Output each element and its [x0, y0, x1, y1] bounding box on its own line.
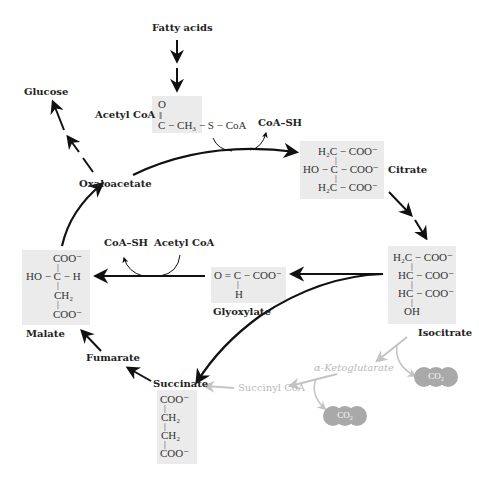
isocitrate-to-ketoglutarate-arrow	[377, 337, 407, 361]
coa-sh-output-curve	[250, 133, 266, 150]
isocitrate-line-2: HC − COO⁻	[398, 270, 454, 281]
glucose-arrow-3	[53, 102, 64, 130]
isocitrate-line-3: HC − COO⁻	[398, 288, 454, 299]
glyoxylate-cycle-diagram: CO₂ CO₂ Fatty acids Glucose Acetyl CoA C…	[0, 0, 479, 480]
malate-label: Malate	[26, 328, 65, 339]
isocitrate-label: Isocitrate	[418, 327, 472, 338]
co2-release-curve-2	[314, 379, 325, 409]
malate-to-oxaloacetate-arrow	[62, 184, 102, 246]
fumarate-label: Fumarate	[86, 352, 140, 363]
acetyl-coa-mid-input-curve	[160, 255, 180, 276]
citrate-label: Citrate	[388, 164, 427, 175]
malate-line-4: COO⁻	[53, 309, 82, 320]
co2-text-1: CO₂	[414, 371, 458, 381]
glyoxylate-line-1: O = C − COO⁻	[214, 270, 282, 281]
acetyl-coa-mid-label: Acetyl CoA	[154, 237, 214, 248]
alpha-ketoglutarate-label: α-Ketoglutarate	[314, 362, 394, 373]
co2-text-2: CO₂	[323, 410, 367, 420]
glucose-dash-1	[83, 158, 93, 172]
glyoxylate-line-2: H	[235, 289, 243, 300]
succinate-to-fumarate-arrow	[128, 368, 151, 381]
co2-label-1: CO₂	[414, 367, 458, 387]
glyoxylate-label: Glyoxylate	[213, 306, 271, 317]
isocitrate-line-1: H₂C − COO⁻	[393, 252, 453, 263]
fatty-acids-label: Fatty acids	[152, 22, 213, 33]
acetyl-coa-chain: C − CH₃ − S − CoA	[158, 120, 246, 131]
succinate-label: Succinate	[153, 378, 208, 389]
citrate-line-1: H₂C − COO⁻	[318, 146, 378, 157]
citrate-to-isocitrate-arrow-2	[415, 220, 426, 238]
malate-line-2: HO − C − H	[26, 271, 81, 282]
citrate-line-3: H₂C − COO⁻	[318, 182, 378, 193]
acetyl-coa-top-label: Acetyl CoA	[95, 109, 155, 120]
glucose-label: Glucose	[24, 86, 68, 97]
succinate-line-4: COO⁻	[160, 448, 189, 459]
succinyl-coa-label: Succinyl CoA	[238, 382, 305, 393]
arrows-layer	[0, 0, 479, 480]
glucose-arrow-2	[68, 137, 79, 152]
citrate-to-isocitrate-arrow-1	[389, 192, 411, 215]
oxaloacetate-to-citrate-arrow	[133, 149, 296, 175]
co2-release-curve-1	[397, 345, 415, 376]
coa-sh-top-label: CoA–SH	[258, 117, 302, 128]
citrate-line-2: HO − C − COO⁻	[303, 164, 379, 175]
coa-sh-mid-label: CoA–SH	[104, 237, 148, 248]
coa-sh-mid-output-curve	[124, 258, 143, 276]
oxaloacetate-label: Oxaloacetate	[79, 178, 152, 189]
isocitrate-line-4: OH	[404, 306, 420, 317]
succinyl-coa-to-succinate-arrow	[205, 386, 234, 388]
fumarate-to-malate-arrow	[82, 331, 101, 351]
co2-label-2: CO₂	[323, 406, 367, 426]
